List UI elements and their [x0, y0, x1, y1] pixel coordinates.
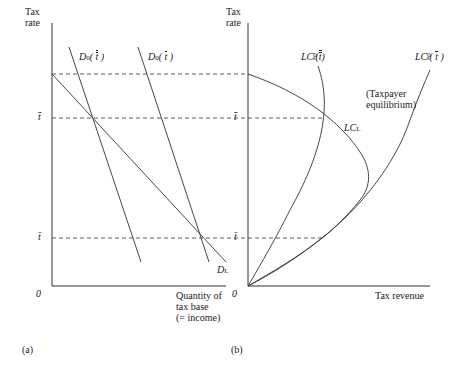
panel-a-tick-lower: t̄ [38, 231, 41, 242]
diagram-canvas [0, 0, 472, 375]
d0-double-bar-curve [69, 47, 141, 262]
taxpayer-equilibrium-annotation-1: (Taxpayer [366, 88, 406, 99]
panel-b-x-label: Tax revenue [375, 290, 424, 301]
panel-a-x-label-3: (= income) [176, 312, 220, 323]
panel-b-tick-upper: t̄̄ [234, 111, 237, 122]
lcs-double-bar-label: LC0s(t) [301, 50, 325, 64]
panel-a-x-label-1: Quantity of [176, 290, 222, 301]
d0-double-bar-label: D0( t ) [79, 51, 104, 64]
panel-a-origin: 0 [36, 288, 41, 299]
lcl-label: LCL [344, 122, 361, 135]
panel-a-caption: (a) [22, 344, 33, 355]
panel-a-y-label-2: rate [25, 17, 40, 28]
panel-b-tick-lower: t̄ [234, 231, 237, 242]
dl-curve [52, 74, 226, 262]
d0-single-bar-curve [138, 47, 209, 262]
panel-a-x-label-2: tax base [176, 301, 209, 312]
panel-a-y-label-1: Tax [25, 6, 40, 17]
lcs-single-bar-label: LC0s( t ) [415, 50, 444, 64]
panel-b-y-label-1: Tax [226, 6, 241, 17]
taxpayer-equilibrium-annotation-2: equilibrium) [366, 99, 416, 110]
dl-label: DL [217, 264, 229, 277]
panel-b-caption: (b) [231, 344, 243, 355]
d0-single-bar-label: D0( t ) [148, 51, 173, 64]
panel-b-origin: 0 [232, 288, 237, 299]
panel-b-y-label-2: rate [226, 17, 241, 28]
panel-a-tick-upper: t̄̄ [38, 111, 41, 122]
lcs-double-bar-curve [248, 66, 324, 286]
